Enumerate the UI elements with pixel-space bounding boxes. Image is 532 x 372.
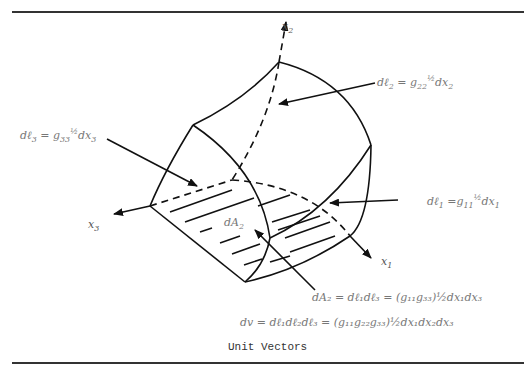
dA2-pointer [255, 230, 315, 290]
dA2-equation: dA₂ = dℓ₁dℓ₃ = (g₁₁g₃₃)½dx₁dx₃ [312, 291, 482, 304]
dl2-pointer [279, 83, 375, 104]
x2-label: x2 [282, 20, 293, 35]
dv-equation: dv = dℓ₁dℓ₂dℓ₃ = (g₁₁g₂₂g₃₃)½dx₁dx₂dx₃ [240, 316, 454, 329]
dashed-back-left [150, 180, 232, 206]
x3-label: x3 [88, 218, 99, 233]
unit-vectors-figure: x2 x3 x1 dℓ2 = g22½dx2 dℓ3 = g33½dx3 dℓ1… [0, 0, 532, 372]
dl1-pointer [330, 200, 398, 203]
edge-top-right [279, 62, 371, 145]
edge-right-down [350, 145, 371, 236]
dl3-pointer [107, 139, 197, 186]
figure-caption: Unit Vectors [228, 341, 307, 353]
bottom-rule [12, 362, 524, 364]
edge-mid-right [270, 145, 371, 238]
x3-axis [114, 206, 150, 214]
dl2-label: dℓ2 = g22½dx2 [377, 74, 453, 91]
edge-top-left [193, 62, 279, 125]
x1-axis [350, 236, 371, 258]
dl3-label: dℓ3 = g33½dx3 [20, 127, 96, 144]
x1-label: x1 [381, 255, 392, 270]
dashed-x2-edge [232, 62, 279, 180]
dA2-tag: dA2 [224, 216, 244, 231]
dl1-label: dℓ1 =g11½dx1 [427, 193, 500, 210]
